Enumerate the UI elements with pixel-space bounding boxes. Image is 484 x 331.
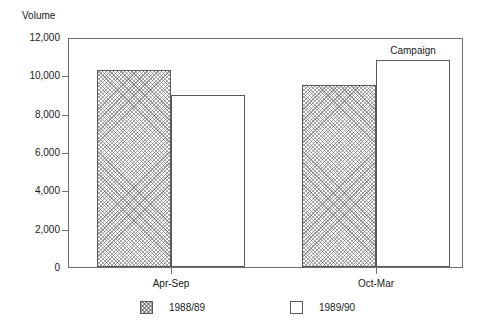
campaign-annotation: Campaign: [353, 45, 473, 56]
y-tick-label: 2,000: [4, 225, 60, 235]
y-tick-label: 6,000: [4, 148, 60, 158]
legend-swatch-hatched-icon: [140, 301, 153, 314]
legend-item[interactable]: 1988/89: [140, 298, 205, 316]
bar: [171, 95, 245, 268]
bar: [302, 85, 376, 267]
y-tick-label: 12,000: [4, 33, 60, 43]
legend-label: 1988/89: [169, 302, 205, 313]
y-tick-label: 0: [4, 263, 60, 273]
plot-area: [68, 38, 463, 268]
y-tick-label: 10,000: [4, 71, 60, 81]
chart-legend: 1988/891989/90: [0, 296, 484, 320]
legend-item[interactable]: 1989/90: [290, 298, 355, 316]
y-tick-label: 8,000: [4, 110, 60, 120]
bar-chart: Volume 12,00010,0008,0006,0004,0002,0000…: [0, 0, 484, 331]
legend-label: 1989/90: [319, 302, 355, 313]
x-tick-mark: [171, 268, 172, 274]
legend-swatch-plain-icon: [290, 301, 303, 314]
x-tick-label: Apr-Sep: [111, 278, 231, 289]
bar: [97, 70, 171, 267]
y-tick-label: 4,000: [4, 186, 60, 196]
x-tick-label: Oct-Mar: [316, 278, 436, 289]
y-axis-title: Volume: [22, 10, 55, 22]
x-tick-mark: [376, 268, 377, 274]
bar: [376, 60, 450, 267]
